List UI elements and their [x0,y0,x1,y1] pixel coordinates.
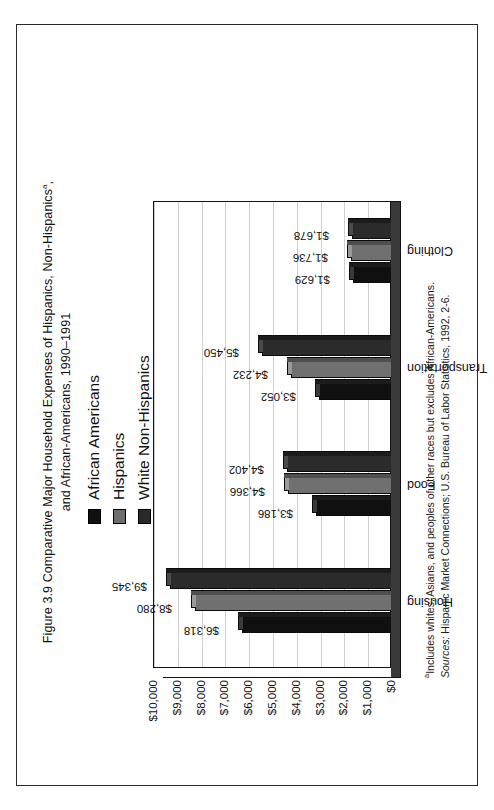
figure-caption: Figure 3.9 Comparative Major Household E… [39,62,75,762]
bar-group-clothing: $1,629$1,736$1,678 [154,222,392,283]
bar-value-label: $1,736 [293,252,328,264]
caption-superscript-marker: a [40,184,49,189]
footnote-note-line: aIncludes whites, Asians, and peoples of… [421,118,438,678]
footnote-sources-label: Sources: [439,637,451,678]
bar-transportation-white-non-hispanics: $5,450 [262,339,392,356]
y-axis-tick-label: $6,000 [242,680,254,715]
footnote-note-text: Includes whites, Asians, and peoples of … [424,282,436,674]
legend-label-african-americans: African Americans [85,375,103,500]
y-axis-tick-label: $4,000 [290,680,302,715]
y-axis-tick-label: $3,000 [314,680,326,715]
bar-side-face [347,240,391,245]
bar-food-white-non-hispanics: $4,402 [287,455,392,472]
bar-value-label: $6,318 [183,625,218,637]
bar-clothing-white-non-hispanics: $1,678 [352,222,392,239]
rotated-figure-stage: Figure 3.9 Comparative Major Household E… [31,48,463,762]
bar-side-face [284,473,391,478]
plot-frame: $6,318$8,280$9,345$3,186$4,366$4,402$3,0… [153,201,391,668]
bar-value-label: $4,402 [229,464,264,476]
footnote-sources-text: Hispanic Market Connections; U.S. Bureau… [439,295,451,637]
bar-series-container: $6,318$8,280$9,345$3,186$4,366$4,402$3,0… [154,190,392,657]
legend-item-white-non-hispanics: White Non-Hispanics [135,355,153,524]
figure-footnote: aIncludes whites, Asians, and peoples of… [421,118,454,678]
footnote-superscript-marker: a [422,674,431,678]
bar-value-label: $5,450 [204,347,239,359]
y-axis-tick-label: $7,000 [218,680,230,715]
bar-side-face [258,335,391,340]
bar-value-label: $1,678 [294,230,329,242]
bar-value-label: $1,629 [295,274,330,286]
caption-line-1: Figure 3.9 Comparative Major Household E… [41,189,55,643]
figure-page: Figure 3.9 Comparative Major Household E… [0,0,494,810]
bar-group-food: $3,186$4,366$4,402 [154,455,392,516]
legend-item-african-americans: African Americans [85,355,103,524]
bar-food-hispanics: $4,366 [288,477,392,494]
bar-group-transportation: $3,052$4,232$5,450 [154,339,392,400]
bar-side-face [166,568,391,573]
y-axis-tick-label: $10,000 [147,680,159,722]
footnote-sources-line: Sources: Hispanic Market Connections; U.… [438,118,454,678]
y-axis-tick-label: $2,000 [337,680,349,715]
bar-side-face [312,495,391,500]
bar-housing-hispanics: $8,280 [195,594,392,611]
legend-item-hispanics: Hispanics [110,355,128,524]
bar-value-label: $8,280 [137,603,172,615]
caption-line-1-suffix: , [41,181,55,185]
bar-value-label: $4,366 [230,486,265,498]
bar-side-face [238,612,391,617]
bar-side-face [287,357,391,362]
bar-side-face [349,262,391,267]
legend-swatch-white-non-hispanics-icon [138,509,151,524]
bar-clothing-hispanics: $1,736 [351,244,392,261]
bar-housing-african-americans: $6,318 [242,616,392,633]
chart-legend: African Americans Hispanics White Non-Hi… [85,355,153,524]
legend-label-hispanics: Hispanics [110,433,128,500]
plot-depth-face [163,668,401,678]
y-axis-tick-label: $9,000 [171,680,183,715]
bar-transportation-african-americans: $3,052 [319,383,392,400]
bar-side-face [315,379,391,384]
bar-transportation-hispanics: $4,232 [291,361,392,378]
bar-group-housing: $6,318$8,280$9,345 [154,572,392,633]
y-axis-tick-label: $5,000 [266,680,278,715]
bar-value-label: $9,345 [111,581,146,593]
bar-side-face [191,590,391,595]
caption-line-2: and African-Americans, 1990–1991 [59,313,73,511]
legend-swatch-african-americans-icon [88,509,101,524]
bar-side-face [348,218,391,223]
bar-clothing-african-americans: $1,629 [353,266,392,283]
legend-label-white-non-hispanics: White Non-Hispanics [135,355,153,500]
bar-value-label: $4,232 [233,369,268,381]
bar-side-face [283,451,391,456]
plot-floor [391,201,401,678]
chart-plot-area: $6,318$8,280$9,345$3,186$4,366$4,402$3,0… [153,191,411,678]
y-axis-tick-label: $8,000 [195,680,207,715]
legend-swatch-hispanics-icon [113,509,126,524]
bar-value-label: $3,186 [258,508,293,520]
y-axis-tick-label: $0 [385,680,397,693]
bar-housing-white-non-hispanics: $9,345 [170,572,392,589]
bar-value-label: $3,052 [261,391,296,403]
y-axis-tick-label: $1,000 [361,680,373,715]
bar-food-african-americans: $3,186 [316,499,392,516]
